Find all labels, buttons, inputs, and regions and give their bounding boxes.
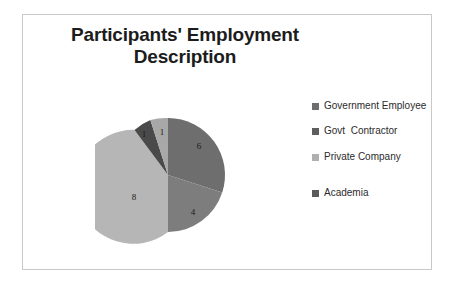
legend-swatch-icon xyxy=(312,190,319,197)
legend-item-govt-contractor[interactable]: Govt Contractor xyxy=(312,125,432,138)
chart-title-line-1: Participants' Employment xyxy=(40,24,330,46)
legend-label: Private Company xyxy=(324,151,401,164)
pie-label-private-company: 8 xyxy=(132,192,137,202)
pie-label-government-employee: 6 xyxy=(197,141,202,151)
pie-chart-svg: 6 4 8 1 1 xyxy=(95,100,255,260)
legend-swatch-icon xyxy=(312,103,319,110)
legend-item-private-company[interactable]: Private Company xyxy=(312,151,432,164)
legend-item-academia[interactable]: Academia xyxy=(312,187,432,200)
pie-label-academia: 1 xyxy=(160,127,165,137)
legend-label: Academia xyxy=(324,187,368,200)
pie-chart-plot-area: 6 4 8 1 1 xyxy=(95,100,255,260)
pie-label-secondary: 4 xyxy=(191,207,196,217)
chart-title: Participants' Employment Description xyxy=(40,24,330,68)
legend-item-government-employee[interactable]: Government Employee xyxy=(312,100,432,113)
figure-canvas: Participants' Employment Description 6 4… xyxy=(0,0,453,285)
legend-label: Government Employee xyxy=(324,100,426,113)
legend-swatch-icon xyxy=(312,154,319,161)
chart-title-line-2: Description xyxy=(40,46,330,68)
legend-swatch-icon xyxy=(312,128,319,135)
pie-label-govt-contractor: 1 xyxy=(142,129,147,139)
legend-label: Govt Contractor xyxy=(324,125,397,138)
chart-legend: Government Employee Govt Contractor Priv… xyxy=(312,100,432,211)
